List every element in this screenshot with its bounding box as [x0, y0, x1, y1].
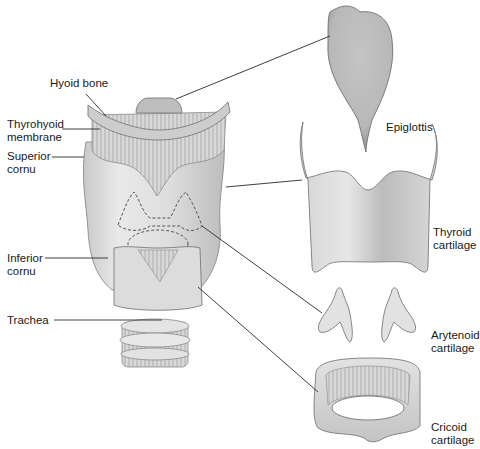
assembled-larynx [83, 98, 230, 367]
label-superior-cornu: Superior cornu [7, 150, 50, 175]
cricoid-cartilage-shape [314, 358, 420, 442]
label-thyrohyoid-membrane: Thyrohyoid membrane [7, 118, 64, 143]
hyoid-body-tab [136, 98, 182, 113]
label-hyoid-bone: Hyoid bone [50, 77, 108, 90]
label-epiglottis: Epiglottis [386, 121, 433, 134]
label-cricoid-cartilage: Cricoid cartilage [431, 421, 474, 446]
label-trachea: Trachea [7, 314, 49, 327]
label-thyroid-cartilage: Thyroid cartilage [433, 226, 476, 251]
arytenoid-right-shape [382, 288, 416, 342]
label-inferior-cornu: Inferior cornu [7, 252, 43, 277]
arytenoid-left-shape [318, 288, 352, 342]
thyroid-cartilage-shape [300, 122, 437, 272]
epiglottis-shape [328, 6, 393, 152]
label-arytenoid-cartilage: Arytenoid cartilage [431, 329, 480, 354]
trachea-shape [120, 319, 190, 367]
